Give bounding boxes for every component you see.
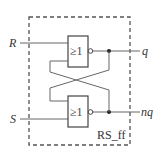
label-s: S xyxy=(10,112,16,126)
label-r: R xyxy=(8,36,17,50)
gate-symbol: ≥1 xyxy=(70,105,83,119)
inverter-bubble-icon xyxy=(88,49,93,54)
nor-gate-top: ≥1 xyxy=(68,36,93,67)
label-nq: nq xyxy=(141,105,153,119)
nor-gate-bottom: ≥1 xyxy=(68,96,93,127)
label-q: q xyxy=(142,44,148,58)
rs-flipflop-diagram: ≥1 ≥1 R S q nq RS_ff xyxy=(0,0,163,165)
gate-symbol: ≥1 xyxy=(70,44,83,58)
inverter-bubble-icon xyxy=(88,110,93,115)
component-name: RS_ff xyxy=(97,128,125,142)
